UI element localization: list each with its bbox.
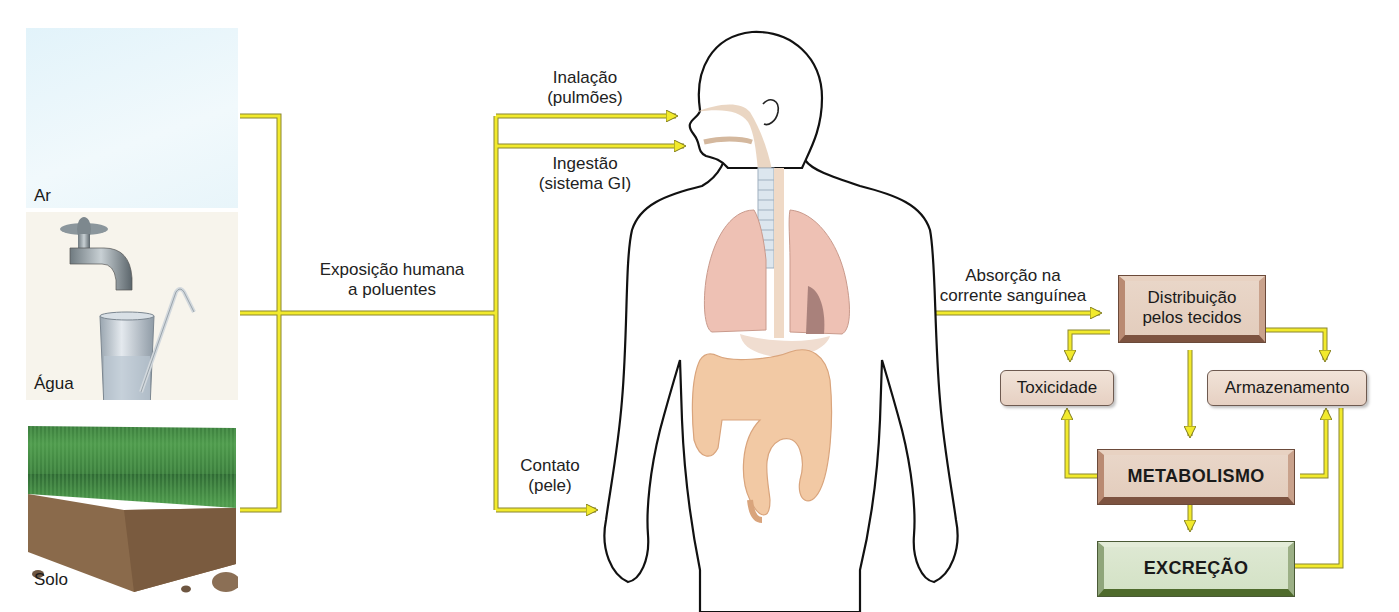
excretion-box: EXCREÇÃO xyxy=(1098,542,1294,596)
exposure-label: Exposição humana a poluentes xyxy=(292,260,492,300)
distribution-box: Distribuição pelos tecidos xyxy=(1119,276,1265,342)
storage-box: Armazenamento xyxy=(1207,370,1367,406)
toxicity-box: Toxicidade xyxy=(1000,370,1114,406)
metabolism-box: METABOLISMO xyxy=(1098,450,1294,504)
ingestion-label: Ingestão (sistema GI) xyxy=(520,154,650,194)
absorption-label: Absorção na corrente sanguínea xyxy=(918,266,1108,306)
inhalation-label: Inalação (pulmões) xyxy=(520,68,650,108)
contact-label: Contato (pele) xyxy=(500,456,600,496)
